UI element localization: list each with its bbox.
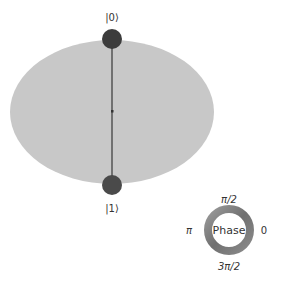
phase-left-label: π bbox=[186, 225, 193, 236]
state-marker-one bbox=[102, 175, 122, 195]
phase-center-label: Phase bbox=[213, 224, 246, 237]
state-marker-zero bbox=[102, 29, 122, 49]
state-diagram: |0⟩ |1⟩ Phase π/2 π 0 3π/2 bbox=[0, 0, 284, 286]
ket-one-label: |1⟩ bbox=[105, 203, 119, 215]
phase-bottom-label: 3π/2 bbox=[218, 261, 240, 272]
center-point bbox=[111, 110, 114, 113]
phase-wheel: Phase π/2 π 0 3π/2 bbox=[186, 194, 267, 272]
phase-right-label: 0 bbox=[261, 225, 267, 236]
ket-zero-label: |0⟩ bbox=[105, 12, 119, 24]
phase-top-label: π/2 bbox=[221, 194, 237, 205]
